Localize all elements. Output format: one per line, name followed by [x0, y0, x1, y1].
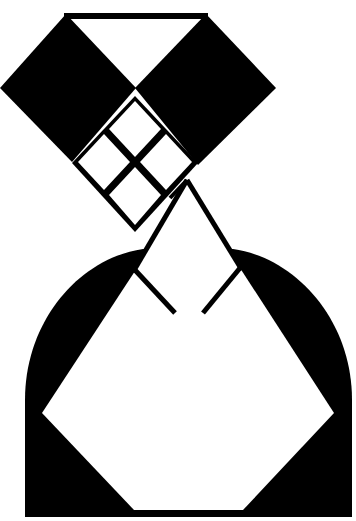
geometric-emblem [0, 0, 356, 521]
top-bar [64, 13, 208, 19]
